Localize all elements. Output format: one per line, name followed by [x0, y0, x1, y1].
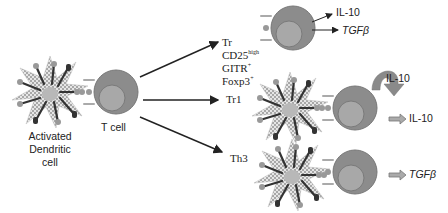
- tr1-cell-icon: [323, 86, 377, 130]
- t-cell-icon: [84, 70, 138, 114]
- dc-label-line1: Activated: [20, 130, 80, 143]
- dendritic-cell-label: Activated Dendritic cell: [20, 130, 80, 169]
- tr1-output-il10: IL-10: [409, 112, 433, 124]
- arrow-to-th3: [140, 117, 222, 152]
- dc-label-line2: Dendritic: [20, 143, 80, 156]
- tr-label-block: Tr CD25high GITR+ Foxp3+: [222, 36, 259, 88]
- hollow-arrow-icon: [389, 170, 406, 180]
- th3-label: Th3: [230, 152, 248, 165]
- tr-name: Tr: [222, 36, 259, 49]
- t-cell-label: T cell: [101, 121, 126, 133]
- hollow-arrow-icon: [389, 114, 406, 124]
- marker-cd25: CD25high: [222, 49, 259, 62]
- tr1-label: Tr1: [226, 93, 242, 106]
- treg-differentiation-diagram: Activated Dendritic cell T cell Tr CD25h…: [0, 0, 448, 213]
- arrow-to-tr: [140, 42, 218, 77]
- tr-output-tgfb: TGFβ: [342, 24, 369, 36]
- th3-output-tgfb: TGFβ: [409, 168, 436, 180]
- diagram-canvas: [0, 0, 448, 213]
- tr-cell-icon: [261, 6, 315, 50]
- tr1-dendritic-cell-icon: [252, 72, 328, 144]
- th3-dendritic-cell-icon: [254, 139, 330, 211]
- marker-foxp3: Foxp3+: [222, 75, 259, 88]
- th3-cell-icon: [323, 150, 377, 194]
- marker-gitr: GITR+: [222, 62, 259, 75]
- dc-label-line3: cell: [20, 156, 80, 169]
- tr1-autocrine-label: IL-10: [386, 72, 410, 84]
- tr-output-il10: IL-10: [336, 6, 360, 18]
- activated-dendritic-cell-icon: [12, 56, 88, 128]
